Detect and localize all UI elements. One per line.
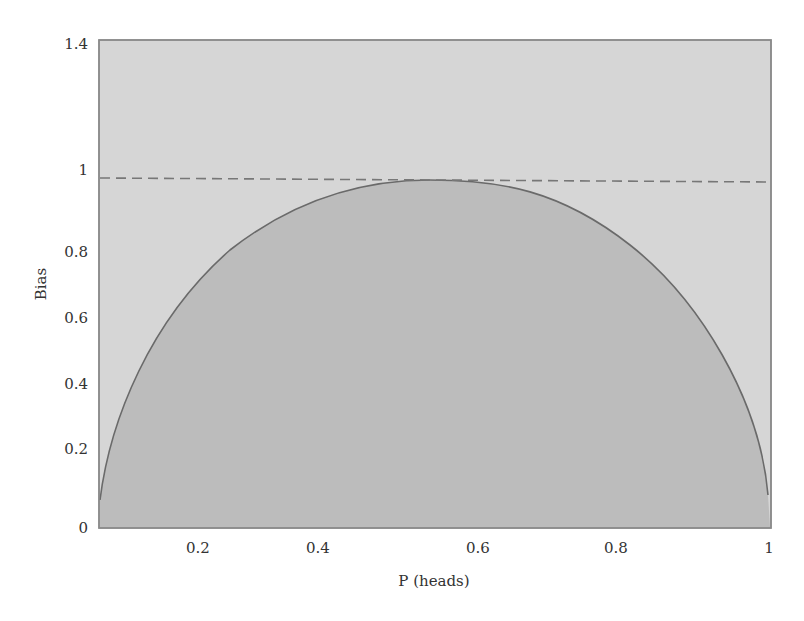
- y-tick-label: 0.8: [64, 243, 88, 261]
- x-tick-label: 0.2: [186, 539, 210, 557]
- x-tick-label: 0.4: [306, 539, 330, 557]
- chart: 1.4 1 0.8 0.6 0.4 0.2 0 0.2 0.4 0.6 0.8 …: [0, 0, 804, 621]
- y-axis-label: Bias: [32, 268, 50, 300]
- y-tick-label: 0.6: [64, 309, 88, 327]
- x-tick-label: 0.8: [604, 539, 628, 557]
- x-tick-label: 1: [764, 539, 774, 557]
- y-tick-label: 0.2: [64, 440, 88, 458]
- y-tick-label: 1: [78, 161, 88, 179]
- x-tick-label: 0.6: [466, 539, 490, 557]
- y-tick-label: 0: [78, 519, 88, 537]
- x-axis-label: P (heads): [398, 572, 469, 590]
- y-tick-label: 0.4: [64, 375, 88, 393]
- y-tick-label: 1.4: [64, 35, 88, 53]
